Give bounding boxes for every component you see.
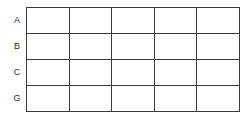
grid-body bbox=[27, 8, 240, 112]
grid-cell[interactable] bbox=[197, 34, 240, 60]
grid-cell[interactable] bbox=[112, 60, 155, 86]
table-row bbox=[27, 60, 240, 86]
row-label-g-text: G bbox=[13, 94, 20, 103]
row-label-a: A bbox=[10, 7, 24, 33]
table-row bbox=[27, 86, 240, 112]
grid-cell[interactable] bbox=[27, 8, 70, 34]
row-label-c-text: C bbox=[14, 68, 21, 77]
grid-cell[interactable] bbox=[112, 34, 155, 60]
row-label-g: G bbox=[10, 85, 24, 111]
row-label-b-text: B bbox=[14, 42, 20, 51]
grid-figure: A B C G bbox=[0, 0, 251, 120]
grid-cell[interactable] bbox=[27, 60, 70, 86]
grid-cell[interactable] bbox=[69, 86, 112, 112]
grid-cell[interactable] bbox=[112, 86, 155, 112]
grid-cell[interactable] bbox=[154, 60, 197, 86]
row-label-c: C bbox=[10, 59, 24, 85]
grid-table bbox=[26, 7, 240, 112]
grid-cell[interactable] bbox=[27, 34, 70, 60]
grid-cell[interactable] bbox=[197, 60, 240, 86]
grid-cell[interactable] bbox=[197, 8, 240, 34]
table-row bbox=[27, 34, 240, 60]
grid-cell[interactable] bbox=[112, 8, 155, 34]
grid-cell[interactable] bbox=[27, 86, 70, 112]
grid-cell[interactable] bbox=[154, 86, 197, 112]
grid-cell[interactable] bbox=[154, 34, 197, 60]
grid-cell[interactable] bbox=[69, 8, 112, 34]
grid-cell[interactable] bbox=[69, 60, 112, 86]
row-label-a-text: A bbox=[14, 16, 20, 25]
grid-cell[interactable] bbox=[69, 34, 112, 60]
table-row bbox=[27, 8, 240, 34]
grid-cell[interactable] bbox=[197, 86, 240, 112]
row-label-column: A B C G bbox=[10, 7, 24, 111]
row-label-b: B bbox=[10, 33, 24, 59]
grid-cell[interactable] bbox=[154, 8, 197, 34]
